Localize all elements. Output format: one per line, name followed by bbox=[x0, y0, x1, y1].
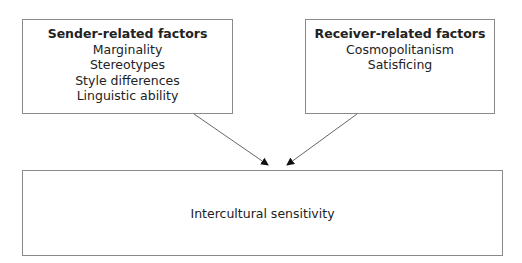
arrow-receiver-to-outcome bbox=[287, 114, 357, 165]
arrow-sender-to-outcome bbox=[194, 114, 268, 165]
connector-arrows bbox=[0, 0, 522, 263]
